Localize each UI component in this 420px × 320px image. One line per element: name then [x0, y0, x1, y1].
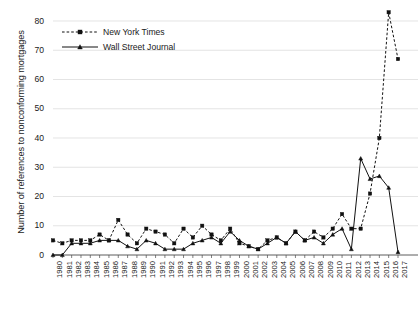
data-point: [200, 224, 203, 227]
data-point: [144, 238, 148, 242]
data-point: [377, 174, 381, 178]
data-point: [387, 11, 390, 14]
data-point: [359, 227, 362, 230]
legend-item-label: New York Times: [103, 27, 165, 37]
data-point: [368, 192, 371, 195]
chart-container: Number of references to nonconforming mo…: [0, 0, 420, 320]
legend-item-label: Wall Street Journal: [103, 42, 175, 52]
data-point: [154, 230, 157, 233]
data-point: [378, 136, 381, 139]
data-point: [396, 250, 400, 254]
data-point: [312, 230, 315, 233]
data-point: [191, 236, 194, 239]
data-point: [61, 242, 64, 245]
data-point: [312, 235, 316, 239]
plot-area: [0, 0, 420, 320]
data-point: [135, 242, 138, 245]
data-point: [396, 57, 399, 60]
data-point: [331, 227, 334, 230]
data-point: [340, 227, 344, 231]
data-point: [340, 212, 343, 215]
gridlines: [53, 21, 418, 226]
data-point: [163, 233, 166, 236]
legend-marker: [78, 30, 82, 34]
data-point: [359, 157, 363, 161]
data-point: [145, 227, 148, 230]
data-point: [182, 227, 185, 230]
series-wall-street-journal: [51, 157, 400, 257]
data-point: [349, 247, 353, 251]
data-point: [173, 242, 176, 245]
data-point: [51, 239, 54, 242]
data-point: [98, 233, 101, 236]
chart-legend: [62, 30, 98, 49]
data-point: [117, 218, 120, 221]
data-point: [322, 236, 325, 239]
data-point: [126, 233, 129, 236]
data-point: [350, 227, 353, 230]
